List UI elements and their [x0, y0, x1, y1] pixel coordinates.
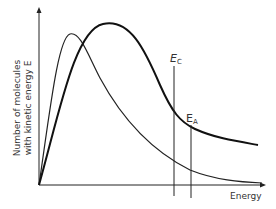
ea-label: EA — [186, 112, 198, 126]
curve-thick — [39, 23, 258, 185]
curve-thin — [39, 34, 262, 185]
y-axis-arrow-icon — [37, 7, 42, 13]
y-axis — [37, 7, 42, 185]
x-axis — [39, 183, 266, 188]
energy-distribution-diagram: EC EA Energy Number of molecules with ki… — [0, 0, 276, 209]
x-axis-label: Energy — [230, 191, 262, 201]
svg-text:with kinetic energy E: with kinetic energy E — [23, 60, 33, 155]
svg-text:Number of molecules: Number of molecules — [12, 60, 22, 157]
ec-label: EC — [170, 52, 182, 66]
y-axis-label: Number of molecules with kinetic energy … — [12, 60, 33, 157]
